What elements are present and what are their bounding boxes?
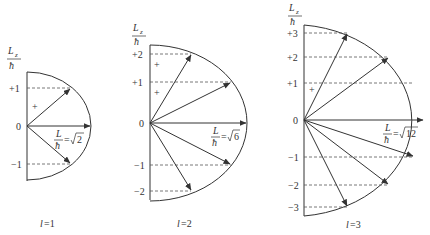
svg-text:12: 12	[406, 128, 416, 139]
tick-label: −1	[11, 159, 22, 170]
caption-l1: l =1	[40, 218, 55, 229]
svg-text:l: l	[40, 218, 43, 229]
diagram-l2: L z ħ +2 +1 0 −1 −2 + + L ħ = 6 l	[132, 22, 247, 229]
svg-text:z: z	[14, 51, 18, 59]
svg-text:=2: =2	[181, 218, 192, 229]
diagram-l3: L z ħ +3 +2 +1 0 −1 −2 −3 + L ħ =	[287, 2, 423, 230]
tick-label: −2	[288, 180, 299, 191]
tick-label: −2	[134, 186, 145, 197]
angular-momentum-diagrams: L z ħ +1 0 −1 + L ħ = 2 l	[0, 0, 430, 235]
svg-text:2: 2	[77, 134, 82, 145]
magnitude-label: L ħ = 6	[211, 125, 240, 148]
svg-text:L: L	[384, 122, 391, 133]
tick-label: +3	[287, 28, 298, 39]
tick-label: +1	[132, 77, 143, 88]
svg-text:ħ: ħ	[384, 134, 389, 145]
tick-label: +2	[132, 49, 143, 60]
axis-label-lz-over-hbar: L z ħ	[7, 45, 21, 71]
plus-sign: +	[32, 101, 38, 112]
axis-label-lz-over-hbar: L z ħ	[132, 22, 146, 47]
svg-text:ħ: ħ	[290, 16, 295, 27]
tick-label: +1	[9, 83, 20, 94]
svg-text:l: l	[177, 218, 180, 229]
svg-text:L: L	[212, 125, 219, 136]
svg-text:L: L	[288, 2, 295, 13]
vector-m-plus3	[304, 34, 347, 120]
svg-text:z: z	[295, 8, 299, 16]
svg-text:=: =	[393, 128, 399, 139]
tick-label: +2	[287, 52, 298, 63]
magnitude-label: L ħ = 12	[383, 122, 418, 145]
vector-m-plus2	[304, 58, 388, 120]
magnitude-label: L ħ = 2	[54, 128, 84, 151]
tick-label: 0	[16, 121, 21, 132]
tick-label: −1	[134, 160, 145, 171]
svg-text:=1: =1	[44, 218, 55, 229]
svg-text:ħ: ħ	[212, 137, 217, 148]
svg-text:ħ: ħ	[9, 60, 14, 71]
svg-text:=: =	[221, 131, 227, 142]
vector-m-minus3	[304, 120, 347, 206]
tick-label: 0	[139, 118, 144, 129]
svg-text:=: =	[64, 134, 70, 145]
axis-label-lz-over-hbar: L z ħ	[288, 2, 302, 27]
svg-text:=3: =3	[350, 219, 361, 230]
tick-label: 0	[293, 115, 298, 126]
plus-sign: +	[154, 87, 160, 98]
svg-text:z: z	[139, 28, 143, 36]
vector-m-minus2	[304, 120, 388, 184]
tick-label: +1	[287, 78, 298, 89]
svg-text:ħ: ħ	[134, 36, 139, 47]
caption-l3: l =3	[346, 219, 361, 230]
svg-text:L: L	[132, 22, 139, 33]
tick-label: −3	[288, 202, 299, 213]
svg-text:l: l	[346, 219, 349, 230]
diagram-l1: L z ħ +1 0 −1 + L ħ = 2 l	[7, 45, 91, 229]
plus-sign: +	[309, 84, 315, 95]
tick-label: −1	[288, 152, 299, 163]
caption-l2: l =2	[177, 218, 192, 229]
svg-text:L: L	[55, 128, 62, 139]
svg-text:ħ: ħ	[55, 140, 60, 151]
svg-text:L: L	[7, 45, 14, 56]
svg-text:6: 6	[234, 131, 239, 142]
plus-sign: +	[154, 59, 160, 70]
